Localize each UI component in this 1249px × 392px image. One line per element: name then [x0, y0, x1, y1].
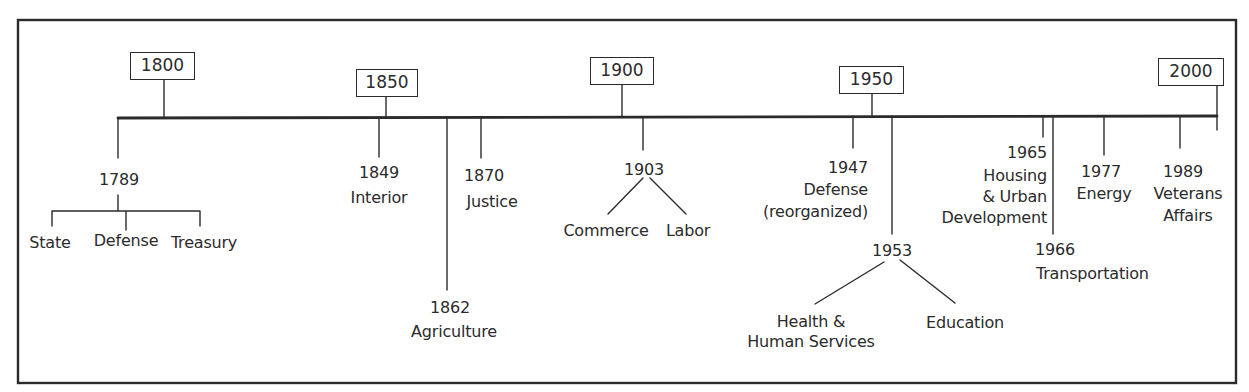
dept-veterans-line2: Affairs	[1163, 206, 1212, 225]
event-year-1953: 1953	[872, 241, 912, 260]
dept-health-human-services: Health & Human Services	[746, 312, 876, 352]
dept-state: State	[29, 233, 70, 252]
decade-box-1850: 1850	[356, 69, 418, 97]
dept-health-human-services-label: Health & Human Services	[746, 312, 876, 352]
dept-transportation: Transportation	[1036, 264, 1149, 283]
timeline-axis	[118, 116, 1217, 118]
dept-treasury: Treasury	[171, 233, 237, 252]
dept-commerce: Commerce	[563, 221, 648, 240]
decade-box-2000: 2000	[1158, 58, 1224, 86]
dept-labor: Labor	[666, 221, 710, 240]
branch-1953	[815, 260, 955, 304]
dept-housing-line2: & Urban	[982, 187, 1047, 206]
dept-education: Education	[926, 313, 1004, 332]
decade-box-1900: 1900	[590, 57, 654, 85]
event-year-1965: 1965	[1007, 143, 1047, 162]
event-year-1870: 1870	[464, 166, 504, 185]
event-year-1862: 1862	[430, 298, 470, 317]
event-year-1789: 1789	[99, 170, 139, 189]
branch-1903	[608, 178, 686, 214]
dept-interior: Interior	[351, 188, 408, 207]
dept-defense-1947: Defense	[803, 180, 868, 199]
bracket-1789	[52, 195, 200, 230]
dept-veterans-line1: Veterans	[1154, 184, 1223, 203]
decade-box-1950: 1950	[839, 66, 904, 94]
event-year-1903: 1903	[624, 160, 664, 179]
dept-justice: Justice	[466, 192, 517, 211]
event-year-1989: 1989	[1163, 162, 1203, 181]
dept-energy: Energy	[1077, 184, 1132, 203]
dept-defense: Defense	[94, 231, 159, 250]
dept-housing-line3: Development	[941, 208, 1047, 227]
event-year-1849: 1849	[359, 163, 399, 182]
decade-box-1800: 1800	[130, 52, 195, 80]
dept-defense-reorganized-note: (reorganized)	[763, 202, 868, 221]
dept-housing-line1: Housing	[983, 166, 1047, 185]
event-year-1947: 1947	[828, 158, 868, 177]
event-year-1977: 1977	[1081, 162, 1121, 181]
event-year-1966: 1966	[1035, 240, 1075, 259]
dept-agriculture: Agriculture	[411, 322, 497, 341]
